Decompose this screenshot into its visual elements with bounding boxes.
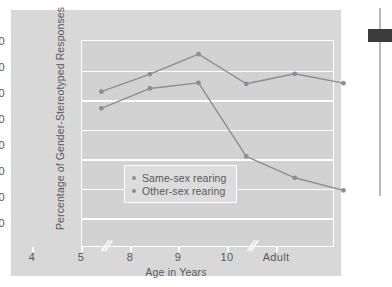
series-other-sex-rearing xyxy=(99,52,346,94)
y-tick-label: 30 xyxy=(0,191,5,203)
legend-item-same-sex-rearing: Same-sex rearing xyxy=(132,171,226,184)
series-svg xyxy=(82,41,333,246)
x-tick-label: 8 xyxy=(127,251,133,263)
legend-label: Same-sex rearing xyxy=(142,172,226,184)
data-point xyxy=(196,52,201,57)
data-point xyxy=(292,71,297,76)
y-axis-label: Percentage of Gender-Stereotyped Respons… xyxy=(54,10,66,230)
x-tick-label: 10 xyxy=(221,251,234,263)
data-point xyxy=(99,89,104,94)
y-tick-label: 20 xyxy=(0,217,5,229)
x-axis-label: Age in Years xyxy=(11,266,341,278)
scrollbar-thumb[interactable] xyxy=(368,29,392,42)
data-point xyxy=(148,72,153,77)
y-tick-label: 70 xyxy=(0,87,5,99)
x-tick-label: 4 xyxy=(29,251,35,263)
figure-panel: 90 80 70 60 50 40 30 20 Percentage of Ge… xyxy=(11,10,341,276)
y-tick-label: 50 xyxy=(0,139,5,151)
y-tick-label: 80 xyxy=(0,61,5,73)
x-tick-label: 5 xyxy=(78,251,84,263)
data-point xyxy=(292,175,297,180)
data-point xyxy=(244,154,249,159)
legend-marker-icon xyxy=(132,189,136,193)
y-tick-label: 60 xyxy=(0,113,5,125)
series-line xyxy=(101,54,343,91)
data-point xyxy=(99,106,104,111)
x-tick-label: Adult xyxy=(263,251,290,263)
data-point xyxy=(196,81,201,86)
screenshot-root: 90 80 70 60 50 40 30 20 Percentage of Ge… xyxy=(0,0,392,287)
legend: Same-sex rearing Other-sex rearing xyxy=(124,165,237,203)
legend-label: Other-sex rearing xyxy=(142,185,225,197)
data-point xyxy=(244,81,249,86)
y-tick-label: 90 xyxy=(0,35,5,47)
legend-item-other-sex-rearing: Other-sex rearing xyxy=(132,184,226,197)
data-point xyxy=(341,188,346,193)
y-tick-label: 40 xyxy=(0,165,5,177)
x-tick-label: 9 xyxy=(175,251,181,263)
plot-area xyxy=(81,40,334,247)
legend-marker-icon xyxy=(132,176,136,180)
data-point xyxy=(148,86,153,91)
data-point xyxy=(341,81,346,86)
